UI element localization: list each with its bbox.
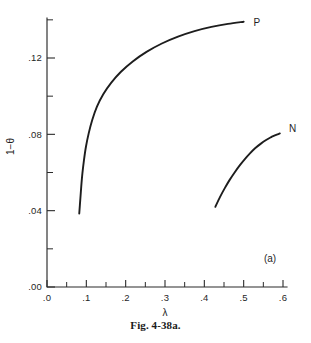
ticks-group	[47, 20, 283, 287]
curve-label-n: N	[289, 123, 296, 134]
panel-label: (a)	[264, 253, 276, 264]
y-tick-label: .08	[28, 129, 42, 140]
x-tick-label: .2	[122, 292, 130, 303]
x-tick-label: .1	[82, 292, 90, 303]
curve-label-p: P	[254, 17, 261, 28]
x-tick-label: .3	[161, 292, 169, 303]
figure-caption: Fig. 4-38a.	[0, 319, 311, 331]
curve-n	[215, 133, 280, 206]
x-tick-label: .0	[43, 292, 51, 303]
curve-labels-group: PN	[254, 17, 297, 134]
x-tick-label: .6	[279, 292, 287, 303]
y-axis-title: 1−θ	[5, 138, 16, 155]
panel-label-group: (a)	[264, 253, 276, 264]
tick-labels-group: .00.04.08.12.0.1.2.3.4.5.6	[28, 52, 287, 303]
x-tick-label: .4	[200, 292, 208, 303]
y-tick-label: .00	[28, 281, 42, 292]
curves-group	[79, 22, 280, 214]
x-tick-label: .5	[240, 292, 248, 303]
y-tick-label: .12	[28, 52, 42, 63]
y-tick-label: .04	[28, 205, 42, 216]
x-axis-title: λ	[163, 307, 168, 318]
figure-container: .00.04.08.12.0.1.2.3.4.5.6 PN λ1−θ (a) F…	[0, 0, 311, 343]
chart-canvas: .00.04.08.12.0.1.2.3.4.5.6 PN λ1−θ (a)	[0, 0, 311, 343]
curve-p	[79, 22, 243, 214]
